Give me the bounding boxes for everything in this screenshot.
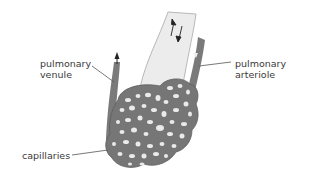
capillaries-label: capillaries bbox=[22, 150, 70, 161]
venule-label-line1: pulmonary bbox=[40, 58, 91, 69]
capillary-network bbox=[106, 79, 198, 167]
venule-arrow-icon bbox=[115, 52, 120, 59]
airway-tube bbox=[140, 12, 196, 90]
capillaries-leader-line bbox=[72, 150, 108, 155]
venule-leader-line bbox=[92, 66, 114, 82]
venule-label-line2: venule bbox=[40, 69, 91, 80]
pulmonary-venule-label: pulmonary venule bbox=[40, 58, 91, 80]
pulmonary-arteriole-label: pulmonary arteriole bbox=[235, 58, 286, 80]
arteriole-label-line2: arteriole bbox=[235, 69, 286, 80]
arteriole-label-line1: pulmonary bbox=[235, 58, 286, 69]
arteriole-leader-line bbox=[199, 62, 231, 66]
